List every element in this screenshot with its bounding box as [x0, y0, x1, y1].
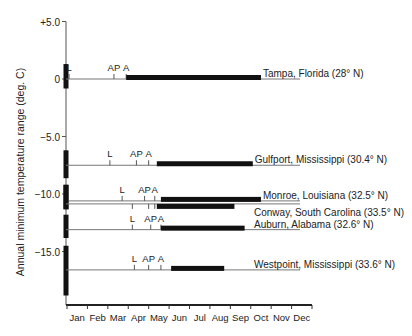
- season-bar: [157, 204, 235, 209]
- y-axis-label: Annual minimum temperature range (deg. C…: [14, 68, 26, 276]
- stage-marker-label: A: [145, 148, 152, 159]
- season-bar: [161, 197, 261, 202]
- stage-marker-label: AP: [108, 62, 121, 73]
- stage-marker-label: A: [158, 213, 165, 224]
- month-label: Oct: [254, 312, 269, 323]
- season-bar: [171, 266, 224, 271]
- stage-marker-label: A: [123, 62, 130, 73]
- y-tick-label: +5.0: [40, 17, 60, 28]
- series-row: LAPAGulfport, Mississippi (30.4° N): [64, 148, 388, 178]
- stage-marker-label: AP: [144, 213, 157, 224]
- stage-marker-label: A: [152, 184, 159, 195]
- month-label: Aug: [212, 312, 229, 323]
- month-label: Jul: [194, 312, 206, 323]
- y-axis: +5.00−5.0−10.0−15.0: [35, 17, 66, 306]
- month-label: Nov: [273, 312, 290, 323]
- y-tick-label: −5.0: [40, 132, 60, 143]
- month-label: Jan: [70, 312, 85, 323]
- y-tick-label: −15.0: [35, 247, 61, 258]
- series-label: Gulfport, Mississippi (30.4° N): [255, 154, 387, 165]
- series-label: Westpoint, Mississippi (33.6° N): [254, 259, 395, 270]
- series-label: Monroe, Louisiana (32.5° N): [263, 190, 388, 201]
- series-row: LAPATampa, Florida (28° N): [64, 62, 364, 89]
- series-label: Tampa, Florida (28° N): [263, 68, 364, 79]
- temperature-range-bar: [64, 150, 69, 178]
- y-tick-label: 0: [54, 74, 60, 85]
- series-row: LAPAWestpoint, Mississippi (33.6° N): [64, 246, 396, 296]
- temperature-range-chart: Annual minimum temperature range (deg. C…: [0, 0, 412, 336]
- month-label: Feb: [89, 312, 105, 323]
- month-label: Apr: [131, 312, 146, 323]
- stage-marker-label: L: [130, 213, 135, 224]
- stage-marker-label: L: [107, 148, 112, 159]
- temperature-range-bar: [64, 215, 69, 238]
- stage-marker-label: AP: [142, 253, 155, 264]
- stage-marker-label: A: [158, 253, 165, 264]
- series-label: Conway, South Carolina (33.5° N): [254, 207, 404, 218]
- series-group: LAPATampa, Florida (28° N)LAPAGulfport, …: [64, 62, 405, 296]
- season-bar: [157, 161, 253, 166]
- stage-marker-label: L: [132, 253, 137, 264]
- y-axis-title: Annual minimum temperature range (deg. C…: [14, 68, 26, 276]
- x-axis: JanFebMarAprMayJunJulAugSepOctNovDec: [66, 305, 312, 323]
- temperature-range-bar: [64, 185, 69, 209]
- temperature-range-bar: [64, 246, 69, 296]
- stage-marker-label: L: [119, 184, 124, 195]
- month-label: Mar: [110, 312, 126, 323]
- season-bar: [126, 75, 261, 80]
- y-tick-label: −10.0: [35, 189, 61, 200]
- month-label: May: [150, 312, 168, 323]
- stage-marker-label: AP: [138, 184, 151, 195]
- month-label: Dec: [293, 312, 310, 323]
- season-bar: [161, 226, 245, 231]
- stage-marker-label: L: [66, 62, 71, 73]
- month-label: Jun: [172, 312, 187, 323]
- stage-marker-label: AP: [130, 148, 143, 159]
- series-label: Auburn, Alabama (32.6° N): [254, 219, 374, 230]
- month-label: Sep: [232, 312, 249, 323]
